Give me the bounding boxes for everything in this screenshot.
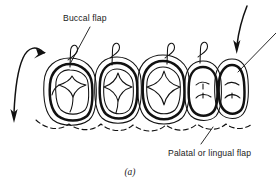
figure-caption: (a) xyxy=(124,167,135,178)
suture-2 xyxy=(110,43,120,65)
figure-container: Buccal flap Palatal or lingual flap (a) xyxy=(0,0,276,187)
tooth-1 xyxy=(44,58,97,125)
tooth-3 xyxy=(138,55,190,124)
leader-palatal-flap xyxy=(201,127,213,144)
dental-flap-diagram: Buccal flap Palatal or lingual flap (a) xyxy=(0,0,276,187)
arrow-buccal-reflection-left xyxy=(10,48,46,123)
tooth-2 xyxy=(95,57,142,123)
label-palatal-or-lingual-flap: Palatal or lingual flap xyxy=(168,148,251,158)
tooth-4 xyxy=(185,61,222,121)
suture-4 xyxy=(198,42,208,63)
suture-group xyxy=(68,42,208,67)
label-buccal-flap: Buccal flap xyxy=(63,13,107,23)
leader-right-edge xyxy=(238,33,276,72)
arrow-flap-replacement-right xyxy=(233,6,247,54)
